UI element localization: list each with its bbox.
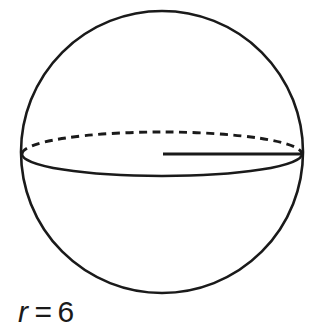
radius-value: 6 [58,295,75,328]
radius-label: r=6 [18,295,75,329]
radius-variable: r [18,295,29,328]
sphere-diagram: r=6 [0,0,319,331]
sphere-drawing-canvas [0,0,319,331]
equator-front-solid-arc [22,154,302,176]
sphere-outline-circle [21,11,303,293]
equator-back-dashed-arc [22,132,302,154]
radius-equals-sign: = [35,295,53,328]
